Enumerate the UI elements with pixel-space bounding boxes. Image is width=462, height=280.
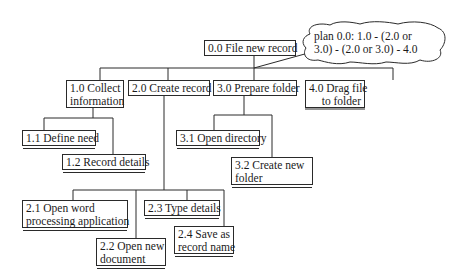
plan-annotation: plan 0.0: 1.0 - (2.0 or 3.0) - (2.0 or 3… — [314, 30, 417, 56]
task-label: 3.0 Prepare folder — [217, 82, 300, 94]
task-label-line-2: document — [100, 253, 162, 266]
task-1-collect-information: 1.0 Collect information — [66, 80, 124, 108]
task-label-line-1: 2.2 Open new — [100, 240, 162, 253]
task-label-line-2: folder — [235, 172, 309, 185]
task-label: 1.1 Define need — [26, 132, 99, 144]
plan-line-2: 3.0) - (2.0 or 3.0) - 4.0 — [314, 43, 417, 56]
task-label-line-1: 1.0 Collect — [70, 82, 120, 95]
task-label-line-2: information — [70, 95, 120, 108]
subtask-1-2-record-details: 1.2 Record details — [62, 154, 146, 170]
task-label-line-1: 2.1 Open word — [26, 202, 124, 215]
task-2-create-record: 2.0 Create record — [128, 80, 210, 96]
task-label: 3.1 Open directory — [180, 132, 267, 144]
task-label: 2.3 Type details — [148, 202, 221, 214]
task-label-line-2: to folder — [309, 95, 361, 108]
task-label-line-2: processing application — [26, 215, 124, 228]
subtask-2-4-save-as-record-name: 2.4 Save as record name — [174, 226, 234, 254]
subtask-3-2-create-new-folder: 3.2 Create new folder — [231, 157, 313, 185]
task-label-line-1: 3.2 Create new — [235, 159, 309, 172]
subtask-2-3-type-details: 2.3 Type details — [144, 200, 220, 216]
task-4-drag-file: 4.0 Drag file to folder — [305, 80, 365, 108]
subtask-1-1-define-need: 1.1 Define need — [22, 130, 96, 146]
subtask-3-1-open-directory: 3.1 Open directory — [176, 130, 260, 146]
task-label-line-2: record name — [178, 241, 230, 254]
task-3-prepare-folder: 3.0 Prepare folder — [213, 80, 297, 96]
task-0-file-new-record: 0.0 File new record — [204, 40, 296, 56]
task-label-line-1: 2.4 Save as — [178, 228, 230, 241]
task-label: 0.0 File new record — [208, 42, 297, 54]
subtask-2-1-open-word-processing: 2.1 Open word processing application — [22, 200, 128, 228]
task-label: 2.0 Create record — [132, 82, 212, 94]
subtask-2-2-open-new-document: 2.2 Open new document — [96, 238, 166, 266]
task-label-line-1: 4.0 Drag file — [309, 82, 361, 95]
task-label: 1.2 Record details — [66, 156, 149, 168]
plan-line-1: plan 0.0: 1.0 - (2.0 or — [314, 30, 417, 43]
